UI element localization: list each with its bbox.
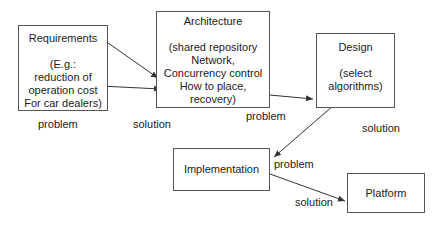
- impl-solution-label: solution: [295, 196, 333, 208]
- impl-problem-label: problem: [274, 158, 314, 170]
- requirements-box: Requirements (E.g.: reduction of operati…: [18, 25, 108, 111]
- design-desc: (select algorithms): [317, 67, 394, 93]
- design-box: Design (select algorithms): [316, 33, 395, 108]
- arch-solution-label: solution: [133, 118, 171, 130]
- architecture-desc: (shared repository Network, Concurrency …: [157, 41, 269, 106]
- platform-title: Platform: [348, 187, 424, 200]
- design-title: Design: [317, 41, 394, 54]
- req-problem-label: problem: [38, 118, 78, 130]
- implementation-box: Implementation: [173, 148, 270, 191]
- arch-problem-label: problem: [246, 110, 286, 122]
- requirements-desc: (E.g.: reduction of operation cost For c…: [19, 58, 107, 110]
- architecture-title: Architecture: [157, 15, 269, 28]
- platform-box: Platform: [347, 173, 425, 213]
- requirements-title: Requirements: [19, 32, 107, 45]
- architecture-box: Architecture (shared repository Network,…: [156, 11, 270, 108]
- design-solution-label: solution: [362, 122, 400, 134]
- implementation-title: Implementation: [174, 163, 269, 176]
